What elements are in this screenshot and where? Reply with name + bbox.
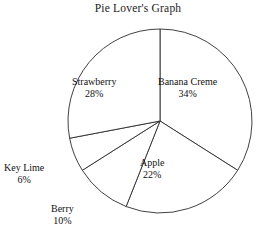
slice-label-banana-creme: Banana Creme34% — [158, 76, 217, 100]
slice-label-percent: 34% — [158, 88, 217, 100]
slice-label-key-lime: Key Lime6% — [4, 162, 44, 186]
slice-label-percent: 6% — [4, 174, 44, 186]
slice-label-name: Strawberry — [72, 76, 116, 87]
pie-chart-figure: Pie Lover's Graph Banana Creme34%Apple22… — [0, 0, 276, 240]
slice-label-percent: 22% — [140, 169, 164, 181]
pie-slice-group — [68, 29, 252, 213]
slice-label-berry: Berry10% — [51, 203, 74, 227]
slice-label-name: Banana Creme — [158, 76, 217, 87]
slice-label-name: Apple — [140, 157, 164, 168]
slice-label-strawberry: Strawberry28% — [72, 76, 116, 100]
slice-label-name: Key Lime — [4, 162, 44, 173]
slice-label-name: Berry — [51, 203, 74, 214]
slice-label-percent: 10% — [51, 215, 74, 227]
slice-label-apple: Apple22% — [140, 157, 164, 181]
slice-label-percent: 28% — [72, 88, 116, 100]
pie-chart-canvas — [0, 0, 276, 240]
